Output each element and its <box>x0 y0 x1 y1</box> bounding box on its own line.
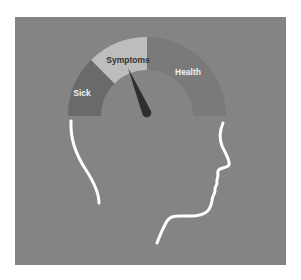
head-gauge-illustration: Sick Symptoms Health <box>0 0 301 280</box>
gauge: Sick Symptoms Health <box>68 37 226 117</box>
gauge-label-health: Health <box>175 67 201 77</box>
gauge-label-symptoms: Symptoms <box>106 55 150 65</box>
head-face-profile <box>157 123 229 243</box>
head-back-outline <box>71 121 99 203</box>
gauge-label-sick: Sick <box>73 88 91 98</box>
gauge-needle <box>128 68 151 117</box>
